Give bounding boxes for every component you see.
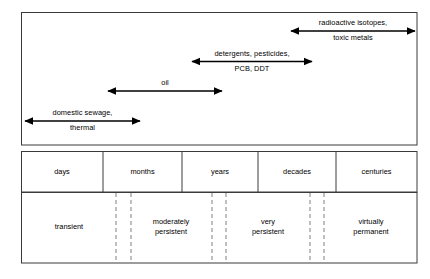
- pollutant-label-domestic-sewage-line2: thermal: [70, 123, 95, 132]
- pollutant-label-detergents-pesticides-line1: detergents, pesticides,: [214, 49, 289, 58]
- pollutant-label-radioactive-isotopes-line1: radioactive isotopes,: [319, 18, 387, 27]
- persistence-timeline-figure: radioactive isotopes, toxic metals deter…: [0, 0, 430, 279]
- timescale-cell-decades: decades: [283, 167, 311, 177]
- pollutant-label-domestic-sewage-line1: domestic sewage,: [53, 108, 113, 117]
- timescale-cell-days: days: [54, 167, 70, 177]
- timescale-cell-centuries: centuries: [362, 167, 392, 177]
- persistence-cell-very-persistent: very persistent: [252, 217, 284, 236]
- persistence-cell-moderately-persistent: moderately persistent: [153, 217, 190, 236]
- pollutant-label-detergents-pesticides-line2: PCB, DDT: [235, 64, 270, 73]
- pollutant-label-oil-line1: oil: [161, 78, 169, 87]
- timescale-cell-years: years: [211, 167, 229, 177]
- persistence-cell-virtually-permanent: virtually permanent: [353, 217, 388, 236]
- persistence-cell-transient: transient: [55, 222, 83, 232]
- timescale-cell-months: months: [130, 167, 154, 177]
- pollutant-label-radioactive-isotopes-line2: toxic metals: [333, 33, 373, 42]
